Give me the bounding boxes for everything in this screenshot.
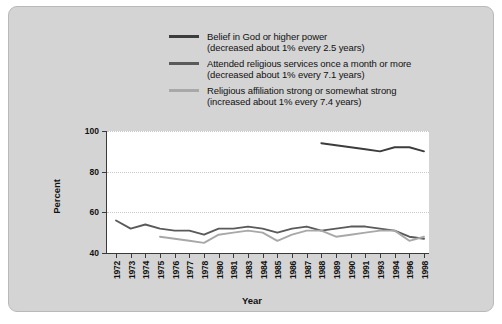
chart-panel: Belief in God or higher power (decreased… xyxy=(8,6,494,312)
x-tick-mark xyxy=(307,253,308,258)
y-tick-label: 100 xyxy=(85,126,99,136)
x-tick-label: 1983 xyxy=(244,261,254,279)
x-tick-label: 1980 xyxy=(215,261,225,279)
x-tick-label: 1985 xyxy=(273,261,283,279)
x-tick-label: 1991 xyxy=(361,261,371,279)
x-tick-mark xyxy=(175,253,176,258)
y-tick-mark xyxy=(102,253,107,254)
series-line-0 xyxy=(321,143,424,151)
gridline xyxy=(107,172,429,173)
x-tick-label: 1998 xyxy=(420,261,430,279)
x-tick-label: 1996 xyxy=(405,261,415,279)
y-tick-mark xyxy=(102,212,107,213)
x-tick-mark xyxy=(233,253,234,258)
x-tick-label: 1994 xyxy=(391,261,401,279)
x-tick-label: 1978 xyxy=(200,261,210,279)
x-tick-label: 1993 xyxy=(376,261,386,279)
plot-wrapper: 406080100 197219731974197519761977197819… xyxy=(107,131,429,253)
y-axis-line xyxy=(106,131,107,253)
chart-legend: Belief in God or higher power (decreased… xyxy=(169,31,469,112)
x-tick-mark xyxy=(380,253,381,258)
x-tick-mark xyxy=(277,253,278,258)
legend-swatch-attended-services xyxy=(169,62,199,65)
x-tick-label: 1981 xyxy=(229,261,239,279)
x-axis-title: Year xyxy=(9,295,495,306)
legend-label-belief-in-god: Belief in God or higher power xyxy=(207,31,469,42)
x-tick-mark xyxy=(189,253,190,258)
plot-area xyxy=(107,131,429,253)
gridline xyxy=(107,212,429,213)
y-tick-label: 60 xyxy=(90,207,99,217)
x-tick-label: 1989 xyxy=(332,261,342,279)
x-tick-mark xyxy=(204,253,205,258)
legend-note-belief-in-god: (decreased about 1% every 2.5 years) xyxy=(207,42,469,53)
x-tick-mark xyxy=(219,253,220,258)
x-tick-mark xyxy=(131,253,132,258)
gridline xyxy=(107,131,429,132)
y-tick-label: 80 xyxy=(90,167,99,177)
x-tick-label: 1972 xyxy=(112,261,122,279)
x-tick-mark xyxy=(160,253,161,258)
x-tick-mark xyxy=(351,253,352,258)
y-axis-title: Percent xyxy=(51,179,62,214)
y-tick-label: 40 xyxy=(90,248,99,258)
legend-swatch-religious-affiliation xyxy=(169,89,199,92)
x-tick-mark xyxy=(409,253,410,258)
legend-label-attended-services: Attended religious services once a month… xyxy=(207,58,469,69)
x-tick-label: 1986 xyxy=(288,261,298,279)
series-line-2 xyxy=(160,231,424,243)
x-tick-mark xyxy=(263,253,264,258)
legend-item-religious-affiliation: Religious affiliation strong or somewhat… xyxy=(169,85,469,107)
x-tick-mark xyxy=(365,253,366,258)
x-tick-mark xyxy=(292,253,293,258)
x-tick-label: 1977 xyxy=(185,261,195,279)
x-tick-mark xyxy=(248,253,249,258)
x-tick-mark xyxy=(116,253,117,258)
x-tick-mark xyxy=(321,253,322,258)
legend-item-belief-in-god: Belief in God or higher power (decreased… xyxy=(169,31,469,53)
x-tick-label: 1984 xyxy=(259,261,269,279)
x-tick-label: 1988 xyxy=(317,261,327,279)
legend-swatch-belief-in-god xyxy=(169,35,199,38)
series-lines xyxy=(107,131,429,253)
x-tick-mark xyxy=(424,253,425,258)
legend-label-religious-affiliation: Religious affiliation strong or somewhat… xyxy=(207,85,469,96)
legend-item-attended-services: Attended religious services once a month… xyxy=(169,58,469,80)
x-tick-label: 1973 xyxy=(127,261,137,279)
legend-note-religious-affiliation: (increased about 1% every 7.4 years) xyxy=(207,96,469,107)
x-tick-label: 1976 xyxy=(171,261,181,279)
x-tick-label: 1990 xyxy=(347,261,357,279)
y-tick-mark xyxy=(102,172,107,173)
x-tick-mark xyxy=(145,253,146,258)
x-tick-label: 1974 xyxy=(141,261,151,279)
x-tick-label: 1975 xyxy=(156,261,166,279)
x-tick-label: 1987 xyxy=(303,261,313,279)
x-tick-mark xyxy=(336,253,337,258)
legend-note-attended-services: (decreased about 1% every 7.1 years) xyxy=(207,69,469,80)
y-tick-mark xyxy=(102,131,107,132)
x-tick-mark xyxy=(395,253,396,258)
